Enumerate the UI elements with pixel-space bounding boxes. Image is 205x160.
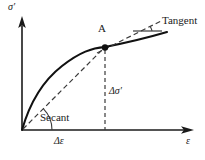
delta-sigma-label: Δσ′ [109, 86, 122, 96]
x-axis [22, 126, 194, 134]
y-axis-label: σ′ [8, 2, 15, 12]
x-axis-label: ε [186, 136, 190, 146]
tangent-angle-arc [150, 26, 152, 31]
tangent-label: Tangent [162, 15, 197, 26]
point-a-marker [102, 44, 108, 50]
delta-epsilon-label: Δε [54, 136, 64, 146]
stress-strain-figure: σ′ ε A Tangent Secant Δσ′ Δε [0, 0, 205, 160]
secant-label: Secant [40, 112, 69, 123]
point-a-label: A [98, 23, 106, 34]
y-axis [18, 16, 26, 130]
